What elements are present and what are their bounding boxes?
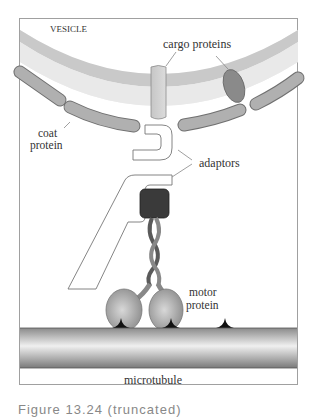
- vesicle-label: VESICLE: [50, 24, 88, 34]
- microtubule-label: microtubule: [124, 373, 182, 387]
- coat-protein-label-line1: coat: [38, 127, 58, 139]
- cargo-proteins-label: cargo proteins: [163, 37, 231, 51]
- motor-protein-label-line2: protein: [186, 299, 219, 312]
- adaptors-label: adaptors: [199, 156, 240, 170]
- figure-caption-truncated: Figure 13.24 (truncated): [18, 402, 181, 417]
- coat-protein-label-line2: protein: [30, 139, 63, 152]
- microtubule: [20, 328, 297, 368]
- motor-protein-label-line1: motor: [189, 286, 217, 298]
- motor-cargo-binding-domain: [140, 189, 169, 218]
- cargo-protein-transmembrane: [151, 66, 166, 120]
